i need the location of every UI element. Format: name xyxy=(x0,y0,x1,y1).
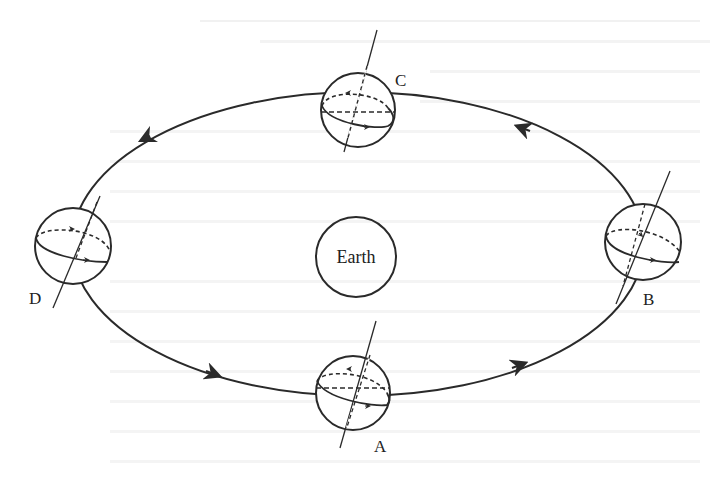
label-b: B xyxy=(643,290,654,309)
globe-position-c: C xyxy=(321,30,406,152)
globe-position-d: D xyxy=(29,196,111,308)
orbit-diagram: Earth C D B xyxy=(0,0,711,483)
earth: Earth xyxy=(316,217,396,297)
orbit-arrow-bottom-right xyxy=(512,365,520,368)
earth-label: Earth xyxy=(337,247,376,267)
orbit-arrow-top-left xyxy=(146,136,150,138)
label-a: A xyxy=(374,437,387,456)
label-d: D xyxy=(29,289,41,308)
label-c: C xyxy=(395,71,406,90)
